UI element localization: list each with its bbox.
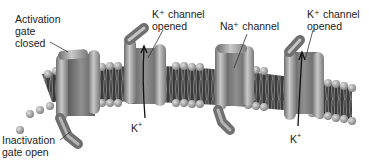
k-channel-opened-1 [124, 28, 166, 118]
k-channel-label-2: K⁺ channel opened [307, 8, 360, 32]
na-channel-closed [56, 49, 100, 144]
na-channel-label: Na⁺ channel [220, 20, 279, 32]
k-channel-opened-2 [284, 40, 324, 126]
inactivation-gate-label: Inactivation gate open [2, 134, 55, 158]
k-ion-label-1: K+ [131, 122, 142, 134]
k-channel-label-1: K⁺ channel opened [152, 8, 205, 32]
activation-gate-label: Activation gate closed [15, 13, 61, 49]
na-channel [215, 44, 254, 130]
k-ion-label-2: K+ [290, 133, 301, 145]
